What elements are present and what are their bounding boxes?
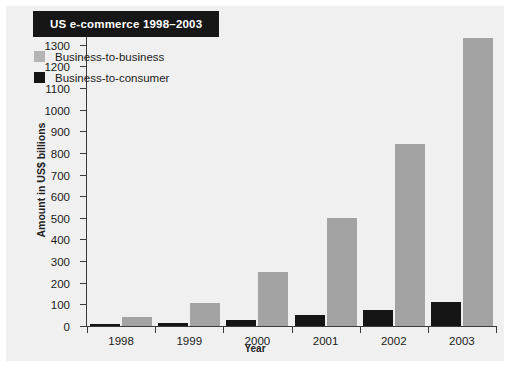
y-tick-label: 100 [24,299,70,311]
y-tick: 400 [80,239,87,240]
x-tick [360,326,361,333]
chart-figure: Amount in US$ billions 01002003004005006… [0,0,510,376]
x-axis-label: Year [0,343,510,354]
legend-swatch-b2c-icon [34,72,45,83]
x-tick [87,326,88,333]
legend-label-b2b: Business-to-business [55,51,164,63]
y-tick: 300 [80,261,87,262]
y-tick-label: 200 [24,278,70,290]
y-tick-label: 0 [24,321,70,333]
chart-panel: Amount in US$ billions 01002003004005006… [6,6,504,361]
y-tick: 600 [80,196,87,197]
x-tick [292,326,293,333]
y-tick-label: 1000 [24,105,70,117]
legend-item-b2b: Business-to-business [34,46,169,67]
y-tick-label: 900 [24,126,70,138]
y-tick-label: 600 [24,191,70,203]
bar-b2c-2001 [295,315,325,326]
bar-b2b-2003 [463,38,493,326]
bar-b2b-1998 [122,317,152,326]
y-tick-label: 400 [24,234,70,246]
y-tick-label: 300 [24,256,70,268]
bar-b2c-2002 [363,310,393,326]
y-tick: 0 [80,326,87,327]
legend-label-b2c: Business-to-consumer [55,72,169,84]
y-tick: 1100 [80,88,87,89]
bar-b2c-1999 [158,323,188,326]
y-tick: 700 [80,175,87,176]
y-tick: 100 [80,304,87,305]
bar-b2b-2000 [258,272,288,326]
x-tick [223,326,224,333]
bar-b2c-2000 [226,320,256,326]
bar-b2b-2001 [327,218,357,326]
y-tick: 900 [80,131,87,132]
y-tick-label: 500 [24,213,70,225]
legend-swatch-b2b-icon [34,51,45,62]
bar-b2c-1998 [90,324,120,326]
y-tick-label: 700 [24,170,70,182]
y-tick: 1000 [80,110,87,111]
y-tick: 800 [80,153,87,154]
bar-b2c-2003 [431,302,461,326]
legend-item-b2c: Business-to-consumer [34,67,169,88]
bar-b2b-2002 [395,144,425,326]
x-tick [428,326,429,333]
y-tick-label: 800 [24,148,70,160]
x-tick [496,326,497,333]
y-tick: 500 [80,218,87,219]
y-tick: 200 [80,283,87,284]
bar-b2b-1999 [190,303,220,326]
x-tick [155,326,156,333]
chart-title: US e-commerce 1998–2003 [33,11,219,37]
chart-legend: Business-to-business Business-to-consume… [34,46,169,88]
